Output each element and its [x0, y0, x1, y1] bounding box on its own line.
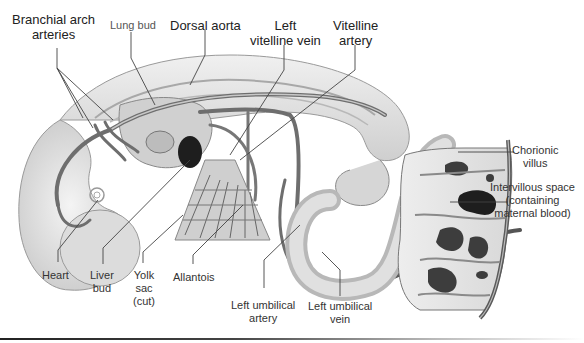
- embryo-illustration: [0, 0, 584, 343]
- label-intervillous-space: Intervillous space (containing maternal …: [490, 181, 575, 220]
- label-chorionic-villus: Chorionic villus: [512, 144, 558, 170]
- label-dorsal-aorta: Dorsal aorta: [170, 18, 241, 33]
- label-left-vitelline-vein: Left vitelline vein: [250, 18, 321, 48]
- label-yolk-sac: Yolk sac (cut): [133, 269, 155, 308]
- label-left-umbilical-artery: Left umbilical artery: [231, 299, 295, 325]
- heart-shape: [146, 131, 174, 153]
- placenta: [398, 140, 512, 318]
- embryo-circulation-diagram: Branchial arch arteries Lung bud Dorsal …: [0, 0, 584, 343]
- label-lung-bud: Lung bud: [110, 19, 156, 32]
- label-branchial-arch-arteries: Branchial arch arteries: [12, 12, 95, 42]
- label-liver-bud: Liver bud: [90, 269, 114, 295]
- label-vitelline-artery: Vitelline artery: [333, 18, 378, 48]
- label-heart: Heart: [42, 269, 69, 282]
- bottom-divider: [0, 338, 584, 340]
- label-allantois: Allantois: [173, 271, 215, 284]
- liver-bud-shape: [178, 136, 202, 168]
- label-left-umbilical-vein: Left umbilical vein: [308, 300, 372, 326]
